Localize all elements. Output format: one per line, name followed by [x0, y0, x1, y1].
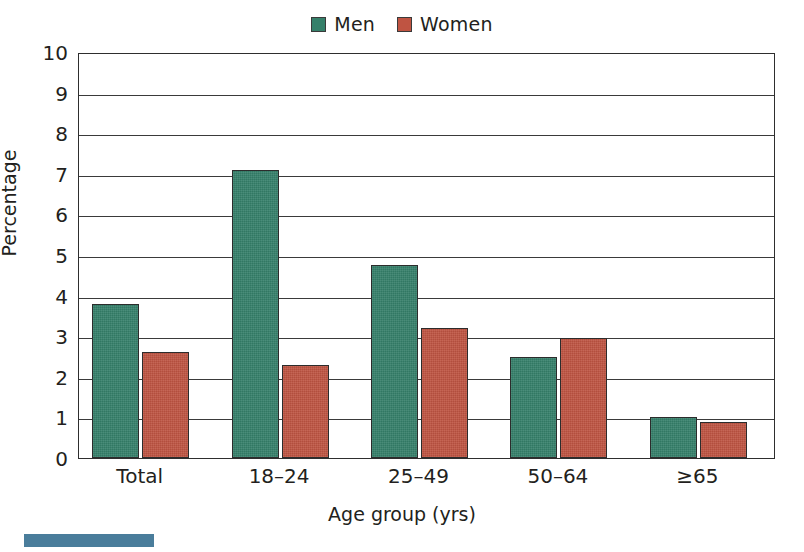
x-axis-title: Age group (yrs)	[0, 503, 804, 525]
legend-entry-men: Men	[311, 15, 375, 34]
y-axis-tick-label: 8	[0, 124, 68, 144]
legend-swatch-women-icon	[397, 17, 412, 32]
caption-strip-artifact	[24, 534, 154, 547]
y-axis-tick-label: 2	[0, 368, 68, 388]
x-axis-tick-label: ≥65	[676, 466, 718, 486]
bar-women-Total	[142, 352, 189, 458]
bar-men-Total	[92, 304, 139, 458]
x-axis-tick-label: 50–64	[527, 466, 588, 486]
bar-men-50–64	[510, 357, 557, 459]
y-axis-tick-label: 0	[0, 449, 68, 469]
y-axis-tick-label: 4	[0, 287, 68, 307]
plot-area	[78, 53, 775, 459]
bar-women-≥65	[700, 422, 747, 458]
y-axis-tick-labels: 012345678910	[0, 0, 68, 552]
y-axis-tick-label: 1	[0, 408, 68, 428]
x-axis-tick-labels: Total18–2425–4950–64≥65	[78, 466, 775, 494]
legend-swatch-men-icon	[311, 17, 326, 32]
bars-layer	[79, 54, 774, 458]
bar-women-18–24	[282, 365, 329, 458]
legend-label-women: Women	[420, 15, 493, 34]
legend-entry-women: Women	[397, 15, 493, 34]
bar-men-25–49	[371, 265, 418, 458]
y-axis-tick-label: 10	[0, 43, 68, 63]
legend-label-men: Men	[334, 15, 375, 34]
bar-women-25–49	[421, 328, 468, 458]
bar-chart-figure: Men Women 012345678910 Percentage Total1…	[0, 0, 804, 552]
x-axis-tick-label: Total	[116, 466, 163, 486]
bar-men-≥65	[650, 417, 697, 458]
y-axis-tick-label: 9	[0, 84, 68, 104]
x-axis-tick-label: 18–24	[249, 466, 310, 486]
bar-women-50–64	[560, 338, 607, 458]
bar-men-18–24	[232, 170, 279, 458]
x-axis-tick-label: 25–49	[388, 466, 449, 486]
y-axis-title: Percentage	[0, 150, 20, 257]
chart-legend: Men Women	[0, 12, 804, 36]
y-axis-tick-label: 3	[0, 327, 68, 347]
